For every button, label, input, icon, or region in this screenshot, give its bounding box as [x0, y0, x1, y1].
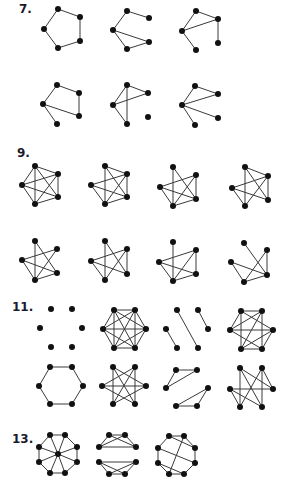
graph-vertex	[181, 471, 187, 477]
graph-vertex	[47, 470, 53, 476]
graph-edge	[35, 249, 57, 280]
graph-vertex	[193, 8, 199, 14]
graph-vertex	[265, 173, 271, 179]
graph-edge	[196, 11, 218, 19]
graph-edge	[159, 262, 196, 274]
graph-vertex	[124, 121, 130, 127]
graph-vertex	[102, 277, 108, 283]
graph-vertex	[110, 364, 116, 370]
graph-13-1	[36, 432, 80, 476]
graph-vertex	[96, 444, 102, 450]
graph-11-8	[227, 365, 276, 410]
graph-edge	[39, 367, 50, 386]
graph-9-1	[19, 163, 61, 207]
graph-vertex	[227, 327, 233, 333]
graph-vertex	[163, 385, 169, 391]
graph-vertex	[55, 6, 61, 12]
graph-vertex	[122, 471, 128, 477]
graph-vertex	[179, 28, 185, 34]
graph-vertex	[100, 326, 106, 332]
graph-vertex	[264, 247, 270, 253]
graph-edge	[198, 310, 208, 329]
graph-edge	[105, 166, 127, 197]
graph-edge	[91, 249, 127, 261]
graph-edge	[22, 166, 35, 185]
graph-vertex	[155, 460, 161, 466]
graph-vertex	[36, 459, 42, 465]
graph-edge	[105, 241, 127, 274]
graph-vertex	[102, 238, 108, 244]
graph-vertex	[237, 365, 243, 371]
graph-vertex	[179, 102, 185, 108]
graph-vertex	[41, 26, 47, 32]
graph-vertex	[124, 8, 130, 14]
graph-edge	[58, 9, 80, 17]
graph-edge	[72, 386, 83, 404]
graph-vertex	[124, 271, 130, 277]
graph-vertex	[54, 270, 60, 276]
graph-vertex	[174, 307, 180, 313]
graph-vertex	[19, 182, 25, 188]
graph-vertex	[124, 171, 130, 177]
graph-vertex	[102, 163, 108, 169]
graph-vertex	[80, 383, 86, 389]
graph-edge	[182, 11, 196, 31]
graph-vertex	[47, 364, 53, 370]
graph-edge	[113, 105, 127, 124]
graph-edge	[105, 174, 127, 204]
graph-vertex	[88, 258, 94, 264]
graph-9-8	[228, 240, 270, 285]
graph-vertex	[241, 240, 247, 246]
graph-vertex	[69, 306, 75, 312]
graph-7-4	[40, 82, 82, 127]
graph-edge	[44, 29, 58, 48]
graph-11-1	[37, 306, 85, 350]
graph-vertex	[228, 259, 234, 265]
graph-vertex	[124, 82, 130, 88]
graph-vertex	[259, 404, 265, 410]
graph-edge	[91, 174, 127, 185]
graph-vertex	[32, 201, 38, 207]
graph-edge	[173, 175, 196, 206]
graph-vertex	[192, 83, 198, 89]
graph-9-5	[19, 238, 60, 283]
graph-vertex	[241, 279, 247, 285]
graph-edge	[195, 86, 218, 94]
graph-7-3	[179, 8, 221, 53]
graph-vertex	[166, 471, 172, 477]
graph-vertex	[192, 122, 198, 128]
graph-vertex	[111, 307, 117, 313]
graph-vertex	[194, 403, 200, 409]
graph-edge	[22, 260, 57, 273]
graph-vertex	[69, 364, 75, 370]
graph-edge	[182, 86, 195, 105]
graph-11-5	[36, 364, 86, 407]
graph-edge	[173, 167, 196, 199]
graph-vertex	[238, 346, 244, 352]
graph-vertex	[173, 403, 179, 409]
graph-vertex	[62, 470, 68, 476]
graph-edge	[127, 85, 148, 93]
graph-vertex	[259, 346, 265, 352]
graph-vertex	[264, 272, 270, 278]
graph-vertex	[54, 246, 60, 252]
graph-7-1	[41, 6, 83, 51]
graph-edge	[176, 388, 208, 406]
graph-vertex	[76, 113, 82, 119]
graph-vertex	[242, 203, 248, 209]
graph-vertex	[205, 385, 211, 391]
graph-vertex	[146, 15, 152, 21]
graph-edge	[127, 42, 149, 49]
graph-vertex	[170, 164, 176, 170]
graph-vertex	[145, 90, 151, 96]
graph-edge	[113, 30, 149, 42]
graph-edge	[244, 250, 267, 282]
graph-vertex	[143, 383, 149, 389]
graph-edge	[35, 166, 58, 197]
graph-vertex	[99, 383, 105, 389]
graph-vertex	[54, 82, 60, 88]
graph-vertex	[77, 38, 83, 44]
graph-11-6	[99, 364, 149, 407]
graph-edge	[160, 175, 196, 187]
graph-vertex	[181, 433, 187, 439]
